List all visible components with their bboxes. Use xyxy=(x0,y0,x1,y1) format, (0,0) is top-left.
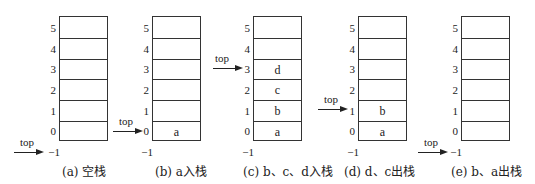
index-label-0: 0 xyxy=(44,125,56,137)
index-label-2: 2 xyxy=(44,84,56,96)
index-label-4: 4 xyxy=(137,43,149,55)
stack-cell-3 xyxy=(60,59,107,80)
stack-cell-4 xyxy=(462,38,509,59)
index-label-2: 2 xyxy=(446,84,458,96)
stack-cell-0: a xyxy=(153,121,200,142)
stack-cell-2 xyxy=(462,79,509,100)
index-label-3: 3 xyxy=(446,63,458,75)
index-label-5: 5 xyxy=(343,22,355,34)
index-label-1: 1 xyxy=(44,105,56,117)
stack-cell-3 xyxy=(462,59,509,80)
stack-cell-2 xyxy=(359,79,406,100)
index-label-1: 1 xyxy=(446,105,458,117)
arrow-head-icon xyxy=(340,106,348,112)
index-label-5: 5 xyxy=(137,22,149,34)
stack-cell-1 xyxy=(462,100,509,121)
index-label-4: 4 xyxy=(446,43,458,55)
stack-box xyxy=(461,16,510,141)
stack-cell-0 xyxy=(60,121,107,142)
index-label-2: 2 xyxy=(343,84,355,96)
stack-box: d c b a xyxy=(253,16,302,141)
stack-cell-2 xyxy=(60,79,107,100)
index-label-minus1: −1 xyxy=(446,146,462,158)
stack-cell-5 xyxy=(254,17,301,38)
stack-cell-0 xyxy=(462,121,509,142)
arrow-head-icon xyxy=(36,149,44,155)
caption-d: (d) d、c出栈 xyxy=(344,162,415,179)
arrow-line xyxy=(418,152,442,153)
top-pointer-label: top xyxy=(215,52,229,64)
arrow-head-icon xyxy=(440,149,448,155)
top-pointer-arrow: top xyxy=(14,147,44,159)
stack-cell-5 xyxy=(153,17,200,38)
top-pointer-arrow: top xyxy=(113,126,143,138)
index-label-3: 3 xyxy=(343,63,355,75)
arrow-head-icon xyxy=(135,128,143,134)
caption-e: (e) b、a出栈 xyxy=(451,162,522,179)
top-pointer-arrow: top xyxy=(418,147,448,159)
index-label-0: 0 xyxy=(343,125,355,137)
index-label-3: 3 xyxy=(44,63,56,75)
index-label-1: 1 xyxy=(137,105,149,117)
stack-cell-4 xyxy=(60,38,107,59)
index-label-4: 4 xyxy=(238,43,250,55)
stack-cell-1 xyxy=(153,100,200,121)
stack-box: a xyxy=(152,16,201,141)
stack-cell-3 xyxy=(153,59,200,80)
arrow-line xyxy=(213,68,237,69)
stack-box xyxy=(59,16,108,141)
index-label-3: 3 xyxy=(137,63,149,75)
index-label-minus1: −1 xyxy=(343,146,359,158)
index-label-minus1: −1 xyxy=(44,146,60,158)
index-label-0: 0 xyxy=(446,125,458,137)
index-label-2: 2 xyxy=(137,84,149,96)
stack-cell-4 xyxy=(254,38,301,59)
index-label-5: 5 xyxy=(446,22,458,34)
arrow-line xyxy=(318,109,342,110)
stack-cell-3: d xyxy=(254,59,301,80)
arrow-line xyxy=(14,152,38,153)
index-label-minus1: −1 xyxy=(238,146,254,158)
top-pointer-arrow: top xyxy=(213,63,243,75)
index-label-5: 5 xyxy=(44,22,56,34)
stack-cell-1: b xyxy=(254,100,301,121)
index-label-minus1: −1 xyxy=(137,146,153,158)
top-pointer-label: top xyxy=(424,136,438,148)
top-pointer-label: top xyxy=(119,115,133,127)
stack-cell-4 xyxy=(359,38,406,59)
arrow-line xyxy=(113,131,137,132)
stack-cell-2 xyxy=(153,79,200,100)
index-label-4: 4 xyxy=(343,43,355,55)
top-pointer-label: top xyxy=(324,93,338,105)
caption-a: (a) 空栈 xyxy=(62,162,106,179)
top-pointer-label: top xyxy=(20,136,34,148)
index-label-2: 2 xyxy=(238,84,250,96)
arrow-head-icon xyxy=(235,65,243,71)
caption-c: (c) b、c、d入栈 xyxy=(243,162,333,179)
top-pointer-arrow: top xyxy=(318,104,348,116)
stack-cell-0: a xyxy=(254,121,301,142)
stack-cell-5 xyxy=(60,17,107,38)
caption-b: (b) a入栈 xyxy=(155,162,207,179)
stack-cell-3 xyxy=(359,59,406,80)
index-label-5: 5 xyxy=(238,22,250,34)
index-label-0: 0 xyxy=(238,125,250,137)
stack-cell-1 xyxy=(60,100,107,121)
stack-cell-0: a xyxy=(359,121,406,142)
stack-cell-2: c xyxy=(254,79,301,100)
stack-cell-4 xyxy=(153,38,200,59)
stack-box: b a xyxy=(358,16,407,141)
index-label-4: 4 xyxy=(44,43,56,55)
stack-cell-5 xyxy=(462,17,509,38)
stack-cell-5 xyxy=(359,17,406,38)
index-label-1: 1 xyxy=(238,105,250,117)
stack-cell-1: b xyxy=(359,100,406,121)
